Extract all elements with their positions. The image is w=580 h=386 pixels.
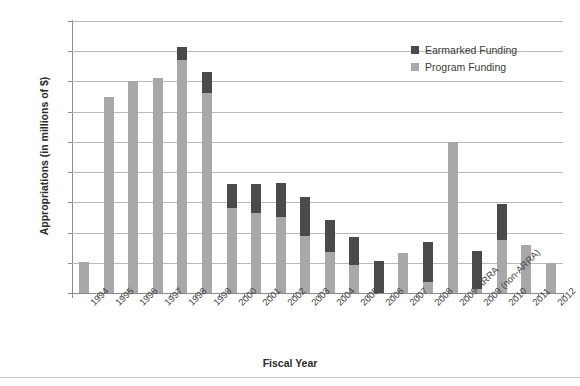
bar-segment-program-funding xyxy=(276,217,286,293)
bar-segment-earmarked-funding xyxy=(202,72,212,92)
bar-segment-earmarked-funding xyxy=(276,183,286,218)
bar-segment-earmarked-funding xyxy=(251,184,261,213)
y-axis-tick-mark xyxy=(68,142,72,143)
y-axis-tick-mark xyxy=(68,202,72,203)
gridline xyxy=(72,142,563,143)
bar xyxy=(104,97,114,293)
bar xyxy=(300,197,310,293)
bar-segment-program-funding xyxy=(227,208,237,293)
chart-legend: Earmarked FundingProgram Funding xyxy=(411,44,517,78)
legend-item: Earmarked Funding xyxy=(411,44,517,56)
bar xyxy=(251,184,261,293)
bar-chart: Appropriations (in millions of $) 020040… xyxy=(0,0,580,386)
gridline xyxy=(72,21,563,22)
bar-segment-program-funding xyxy=(128,81,138,293)
bar xyxy=(276,183,286,293)
bar-segment-program-funding xyxy=(153,78,163,293)
bar-segment-program-funding xyxy=(202,93,212,293)
bar-segment-earmarked-funding xyxy=(227,184,237,208)
bar xyxy=(128,81,138,293)
bar-segment-program-funding xyxy=(448,142,458,293)
bar xyxy=(177,47,187,293)
gridline xyxy=(72,202,563,203)
bar-segment-program-funding xyxy=(79,262,89,293)
y-axis-tick-mark xyxy=(68,21,72,22)
gridline xyxy=(72,233,563,234)
y-axis-title: Appropriations (in millions of $) xyxy=(38,26,50,286)
bar-segment-program-funding xyxy=(104,97,114,293)
footer-divider xyxy=(0,377,580,378)
bar xyxy=(349,237,359,293)
gridline xyxy=(72,112,563,113)
legend-label: Program Funding xyxy=(425,61,506,73)
bar xyxy=(79,262,89,293)
y-axis-tick-mark xyxy=(68,233,72,234)
bar-segment-program-funding xyxy=(251,213,261,293)
gridline xyxy=(72,172,563,173)
legend-item: Program Funding xyxy=(411,61,517,73)
bar-segment-earmarked-funding xyxy=(349,237,359,265)
bar xyxy=(448,142,458,293)
y-axis-tick-mark xyxy=(68,51,72,52)
bar xyxy=(153,78,163,293)
legend-label: Earmarked Funding xyxy=(425,44,517,56)
bar-segment-earmarked-funding xyxy=(177,47,187,61)
y-axis-tick-mark xyxy=(68,263,72,264)
legend-swatch-icon xyxy=(411,46,419,54)
y-axis-tick-mark xyxy=(68,172,72,173)
bar-segment-earmarked-funding xyxy=(300,197,310,236)
y-axis-tick-mark xyxy=(68,112,72,113)
x-axis-tick-mark xyxy=(72,293,73,298)
bar-segment-earmarked-funding xyxy=(423,242,433,282)
bar xyxy=(325,220,335,293)
bar xyxy=(423,242,433,293)
bar-segment-program-funding xyxy=(177,60,187,293)
bar xyxy=(202,72,212,293)
gridline xyxy=(72,81,563,82)
bar-segment-program-funding xyxy=(300,236,310,293)
bar-segment-earmarked-funding xyxy=(325,220,335,252)
bar-segment-earmarked-funding xyxy=(497,204,507,240)
x-axis-title: Fiscal Year xyxy=(0,357,580,369)
bar xyxy=(227,184,237,293)
y-axis-tick-mark xyxy=(68,81,72,82)
legend-swatch-icon xyxy=(411,63,419,71)
gridline xyxy=(72,263,563,264)
